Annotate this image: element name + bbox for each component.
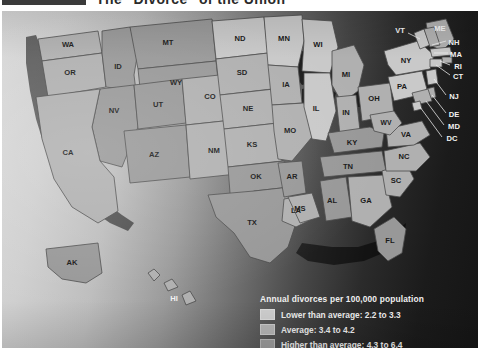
region-south	[320, 111, 430, 261]
label-WY: WY	[170, 78, 182, 87]
label-NM: NM	[208, 146, 220, 155]
state-NJ	[426, 69, 438, 85]
page-title: The "Divorce" of the Union	[96, 0, 285, 7]
label-KY: KY	[347, 138, 358, 147]
label-NJ: NJ	[449, 92, 459, 101]
legend-item-higher[interactable]: Higher than average: 4.3 to 6.4	[260, 338, 474, 348]
label-HI: HI	[170, 294, 178, 303]
label-RI: RI	[454, 62, 462, 71]
label-WA: WA	[62, 40, 75, 49]
label-DC: DC	[447, 134, 458, 143]
label-MI: MI	[342, 70, 350, 79]
title-rule	[2, 0, 86, 5]
legend-label-average: Average: 3.4 to 4.2	[281, 325, 355, 335]
label-ND: ND	[235, 34, 246, 43]
label-NE: NE	[243, 104, 254, 113]
legend-swatch-higher	[260, 339, 275, 348]
label-AR: AR	[287, 172, 298, 181]
label-IL: IL	[313, 104, 320, 113]
label-PA: PA	[397, 82, 408, 91]
label-SD: SD	[237, 68, 248, 77]
region-west	[36, 19, 246, 223]
label-MD: MD	[448, 122, 460, 131]
label-CO: CO	[204, 92, 215, 101]
label-TN: TN	[343, 162, 353, 171]
label-MT: MT	[163, 38, 174, 47]
legend-label-higher: Higher than average: 4.3 to 6.4	[281, 340, 402, 349]
legend-item-lower[interactable]: Lower than average: 2.2 to 3.3	[260, 308, 474, 321]
map-legend: Annual divorces per 100,000 population L…	[260, 294, 474, 348]
label-CT: CT	[453, 72, 463, 81]
label-AZ: AZ	[149, 150, 159, 159]
label-IA: IA	[282, 80, 290, 89]
state-MA	[430, 47, 452, 57]
label-WV: WV	[381, 119, 392, 126]
label-ID: ID	[114, 62, 122, 71]
state-HI-3	[182, 291, 196, 305]
label-WI: WI	[313, 40, 322, 49]
figure-title-bar: The "Divorce" of the Union	[0, 0, 495, 11]
label-VT: VT	[395, 26, 405, 35]
label-AL: AL	[327, 196, 337, 205]
label-SC: SC	[391, 176, 402, 185]
legend-item-average[interactable]: Average: 3.4 to 4.2	[260, 323, 474, 336]
label-FL: FL	[385, 236, 395, 245]
label-NH: NH	[449, 38, 460, 47]
label-MA: MA	[450, 50, 462, 59]
legend-swatch-average	[260, 324, 275, 335]
label-IN: IN	[342, 108, 350, 117]
label-OK: OK	[250, 172, 262, 181]
state-HI-2	[164, 279, 178, 291]
label-NC: NC	[399, 152, 410, 161]
state-CT	[430, 59, 442, 67]
label-OH: OH	[368, 94, 379, 103]
label-DE: DE	[449, 110, 460, 119]
label-OR: OR	[64, 68, 76, 77]
state-DC	[412, 101, 422, 111]
label-MS: MS	[294, 204, 305, 213]
label-GA: GA	[360, 196, 372, 205]
state-HI-1	[148, 269, 160, 281]
label-TX: TX	[247, 218, 257, 227]
label-KS: KS	[247, 140, 258, 149]
label-NV: NV	[109, 106, 120, 115]
label-ME: ME	[434, 24, 445, 33]
label-AK: AK	[67, 258, 78, 267]
label-MO: MO	[284, 126, 296, 135]
label-UT: UT	[153, 100, 163, 109]
label-CA: CA	[63, 148, 74, 157]
legend-title: Annual divorces per 100,000 population	[260, 294, 474, 304]
map-figure: The "Divorce" of the Union	[0, 0, 495, 359]
label-MN: MN	[278, 34, 290, 43]
label-NY: NY	[401, 56, 412, 65]
legend-label-lower: Lower than average: 2.2 to 3.3	[281, 310, 401, 320]
legend-swatch-lower	[260, 309, 275, 320]
label-VA: VA	[401, 130, 412, 139]
us-map-panel: WA OR ID MT WY NV CA UT CO AZ NM ND SD N…	[2, 11, 478, 348]
